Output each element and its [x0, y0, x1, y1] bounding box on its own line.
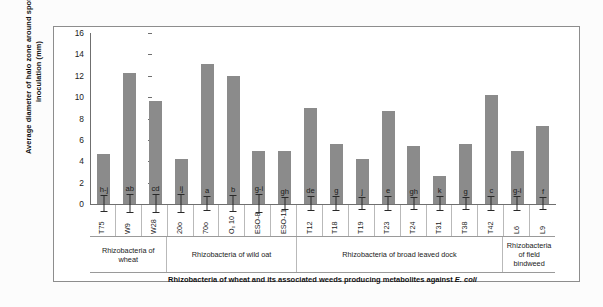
x-tick-cell: O₀ 10 — [219, 205, 245, 236]
bar: h-j — [97, 154, 110, 204]
x-tick-label: O₀ 10 — [227, 216, 236, 234]
error-cap-upper — [359, 197, 366, 198]
y-tick-label: 6 — [79, 135, 84, 145]
bar: gh — [278, 151, 291, 204]
bar: f — [536, 126, 549, 204]
significance-label: a — [205, 186, 209, 195]
x-tick-cell: W28 — [142, 205, 168, 236]
group-band-label: Rhizobacteria of wheat — [92, 246, 164, 264]
bar: ab — [123, 73, 136, 204]
x-tick-cell: T12 — [297, 205, 323, 236]
bar: j — [356, 159, 369, 204]
bar-cell: a — [194, 33, 220, 204]
x-tick-label: T12 — [305, 222, 314, 234]
error-cap-upper — [100, 195, 107, 196]
x-axis-title-italic: E. coli — [455, 275, 477, 284]
x-tick-label: T42 — [486, 222, 495, 234]
bar-cell: g — [453, 33, 479, 204]
x-tick-cell: L6 — [504, 205, 530, 236]
x-tick-label: T38 — [460, 222, 469, 234]
bar-cell: g-i — [246, 33, 272, 204]
chart-figure: Average diameter of halo zone around spo… — [0, 0, 603, 307]
x-tick-cell: T24 — [401, 205, 427, 236]
significance-label: e — [386, 186, 390, 195]
x-axis-title-plain: Rhizobacteria of wheat and its associate… — [168, 275, 455, 284]
plot-area: h-jabcdijabg-ighdegjeghkgcg-if — [90, 33, 556, 205]
bar-cell: gh — [401, 33, 427, 204]
x-tick-cell: T75 — [90, 205, 116, 236]
x-tick-label: L9 — [538, 226, 547, 234]
x-tick-cell: 20o — [168, 205, 194, 236]
group-band: Rhizobacteria of wheat — [90, 237, 167, 272]
x-axis-group-bands: Rhizobacteria of wheatRhizobacteria of w… — [90, 237, 555, 273]
significance-label: de — [306, 186, 314, 195]
bar-cell: gh — [272, 33, 298, 204]
x-tick-label: 70o — [201, 222, 210, 234]
x-tick-label: ESO-11 — [279, 209, 288, 234]
y-tick-label: 0 — [79, 199, 84, 209]
x-tick-label: T18 — [330, 222, 339, 234]
error-cap-upper — [204, 196, 211, 197]
x-tick-label: 20o — [175, 222, 184, 234]
x-tick-cell: 70o — [194, 205, 220, 236]
group-band-label: Rhizobacteria of wild oat — [192, 250, 272, 259]
error-cap-upper — [126, 194, 133, 195]
bar: c — [485, 95, 498, 204]
bar: g-i — [511, 151, 524, 204]
error-cap-upper — [514, 196, 521, 197]
bar-cell: f — [530, 33, 556, 204]
x-axis-category-labels: T75W9W2820o70oO₀ 10ESO-8ESO-11T12T18T19T… — [90, 205, 555, 237]
bar: de — [304, 108, 317, 204]
error-cap-upper — [539, 197, 546, 198]
error-cap-upper — [488, 196, 495, 197]
bar-cell: ij — [168, 33, 194, 204]
x-tick-label: W28 — [149, 219, 158, 234]
x-tick-label: T23 — [382, 222, 391, 234]
significance-label: ab — [126, 184, 134, 193]
significance-label: gh — [410, 187, 418, 196]
x-tick-cell: ESO-8 — [245, 205, 271, 236]
bar-cell: j — [349, 33, 375, 204]
bar: cd — [149, 101, 162, 204]
x-tick-cell: T31 — [427, 205, 453, 236]
error-cap-upper — [178, 194, 185, 195]
significance-label: c — [489, 186, 493, 195]
error-cap-upper — [255, 194, 262, 195]
x-tick-cell: T19 — [349, 205, 375, 236]
bar: gh — [407, 146, 420, 204]
bar-cell: e — [375, 33, 401, 204]
significance-label: f — [542, 187, 544, 196]
x-tick-cell: T23 — [375, 205, 401, 236]
error-cap-upper — [281, 197, 288, 198]
bar-series: h-jabcdijabg-ighdegjeghkgcg-if — [91, 33, 556, 204]
error-cap-upper — [462, 197, 469, 198]
y-axis-tick-labels: 1614121086420 — [62, 26, 84, 208]
significance-label: cd — [152, 184, 160, 193]
significance-label: j — [361, 187, 363, 196]
x-tick-cell: T18 — [323, 205, 349, 236]
x-tick-label: T75 — [97, 222, 106, 234]
bar: a — [201, 64, 214, 204]
y-tick-label: 8 — [79, 114, 84, 124]
significance-label: g-i — [255, 184, 263, 193]
error-cap-upper — [436, 196, 443, 197]
bar-cell: de — [298, 33, 324, 204]
bar-cell: k — [427, 33, 453, 204]
y-tick-label: 16 — [75, 28, 84, 38]
bar-cell: b — [220, 33, 246, 204]
bar: e — [382, 111, 395, 204]
x-tick-label: W9 — [123, 223, 132, 234]
error-cap-upper — [307, 196, 314, 197]
error-cap-upper — [152, 194, 159, 195]
x-tick-cell: T42 — [478, 205, 504, 236]
group-band: Rhizobacteria of wild oat — [167, 237, 296, 272]
group-band: Rhizobacteria of field bindweed — [503, 237, 555, 272]
error-cap-upper — [230, 195, 237, 196]
significance-label: b — [231, 185, 235, 194]
bar-cell: g — [323, 33, 349, 204]
y-tick-label: 12 — [75, 71, 84, 81]
significance-label: h-j — [100, 185, 108, 194]
y-tick-label: 10 — [75, 92, 84, 102]
x-tick-label: L6 — [512, 226, 521, 234]
bar: k — [433, 176, 446, 204]
